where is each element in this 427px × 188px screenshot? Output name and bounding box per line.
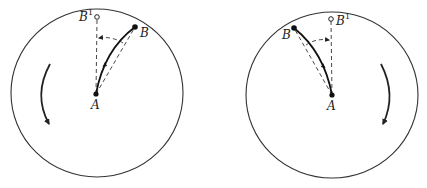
label-b1: B [335, 14, 345, 28]
label-b1-sup: 1 [88, 8, 93, 17]
point-b1 [329, 17, 334, 22]
chord-line [294, 28, 332, 95]
label-b1: B [78, 10, 88, 24]
point-b [291, 25, 297, 31]
label-b: B [139, 26, 149, 40]
point-b1 [95, 15, 100, 20]
label-b: B [281, 28, 291, 42]
left-panel: A B B 1 [11, 8, 183, 177]
chord-line [96, 27, 135, 94]
point-b [132, 24, 138, 30]
label-a: A [90, 98, 100, 112]
rotation-arrow-icon [41, 64, 50, 124]
label-b1-sup: 1 [345, 12, 350, 21]
intended-path-line [331, 21, 332, 95]
point-a [329, 92, 334, 97]
point-a [93, 91, 98, 96]
rotation-arrow-icon [381, 64, 390, 124]
label-a: A [326, 99, 336, 113]
right-panel: A B B 1 [246, 12, 418, 178]
intended-path-line [96, 19, 97, 94]
coriolis-diagram: A B B 1 A B B 1 [0, 0, 427, 188]
